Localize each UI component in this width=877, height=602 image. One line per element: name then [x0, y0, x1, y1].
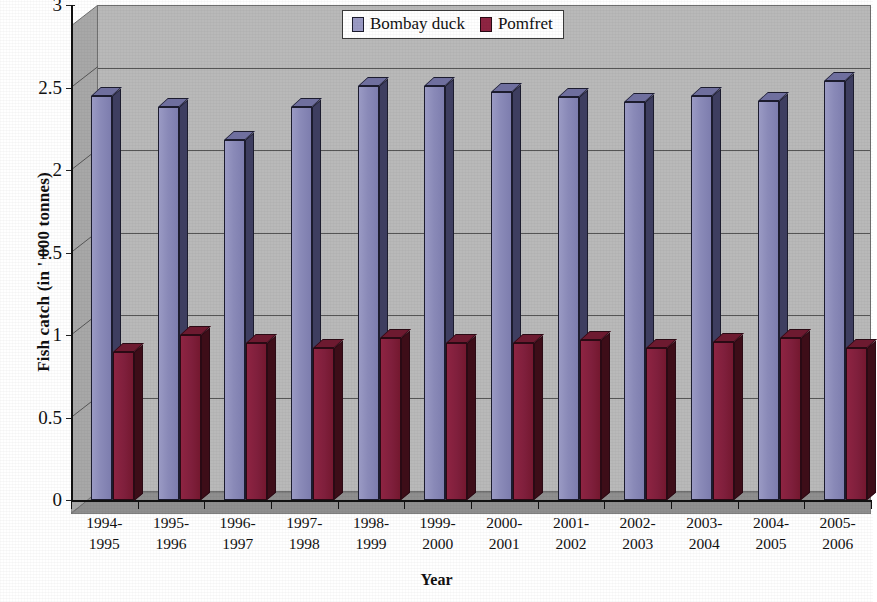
- bar-front-face: [424, 86, 445, 500]
- bar-pomfret: [446, 343, 467, 500]
- y-axis-tick-label: 1: [18, 325, 62, 344]
- x-axis-tick-mark: [871, 500, 872, 509]
- y-axis-line: [71, 5, 73, 502]
- bar-front-face: [580, 340, 601, 500]
- x-axis-tick-label-line2: 2004: [671, 533, 738, 554]
- x-axis-tick-mark: [404, 500, 405, 509]
- x-axis-tick-mark: [138, 500, 139, 509]
- x-axis-tick-mark: [538, 500, 539, 509]
- x-axis-tick-mark: [604, 500, 605, 509]
- bar-bombay-duck: [758, 101, 779, 500]
- x-axis-tick-label-line1: 1998-: [353, 514, 389, 531]
- x-axis-tick-label-line1: 2004-: [753, 514, 789, 531]
- x-axis-tick-label-line2: 2006: [804, 533, 871, 554]
- bar-front-face: [558, 97, 579, 500]
- bar-bombay-duck: [824, 81, 845, 500]
- x-axis-tick-label: 2003-2004: [671, 512, 738, 554]
- bar-front-face: [713, 342, 734, 500]
- x-axis-tick-mark: [671, 500, 672, 509]
- bar-side-face: [801, 331, 810, 500]
- bar-side-face: [667, 341, 676, 500]
- bar-bombay-duck: [158, 107, 179, 500]
- bar-side-face: [201, 327, 210, 500]
- x-axis-tick-mark: [738, 500, 739, 509]
- bar-front-face: [91, 96, 112, 500]
- chart-legend: Bombay duck Pomfret: [342, 10, 564, 39]
- bar-pomfret: [713, 342, 734, 500]
- bar-pomfret: [646, 348, 667, 500]
- bar-pomfret: [780, 338, 801, 500]
- x-axis-tick-label-line1: 1996-: [220, 514, 256, 531]
- bar-side-face: [267, 336, 276, 500]
- bar-front-face: [513, 343, 534, 500]
- x-axis-tick-mark: [338, 500, 339, 509]
- bar-front-face: [158, 107, 179, 500]
- bar-bombay-duck: [491, 92, 512, 500]
- legend-item-bombay-duck: Bombay duck: [352, 14, 465, 34]
- x-axis-tick-label: 1997-1998: [271, 512, 338, 554]
- x-axis-tick-label-line2: 2002: [538, 533, 605, 554]
- x-axis-tick-label-line1: 2002-: [620, 514, 656, 531]
- x-axis-tick-mark: [471, 500, 472, 509]
- bar-front-face: [313, 348, 334, 500]
- x-axis-tick-label: 2005-2006: [804, 512, 871, 554]
- bar-bombay-duck: [358, 86, 379, 500]
- x-axis-tick-label-line1: 2005-: [820, 514, 856, 531]
- bar-front-face: [646, 348, 667, 500]
- bar-bombay-duck: [624, 102, 645, 500]
- x-axis-tick-label-line2: 2000: [404, 533, 471, 554]
- x-axis-tick-label: 2001-2002: [538, 512, 605, 554]
- x-axis-tick-mark: [271, 500, 272, 509]
- bar-side-face: [134, 344, 143, 500]
- bar-pomfret: [180, 335, 201, 500]
- bar-pomfret: [113, 352, 134, 501]
- bar-front-face: [491, 92, 512, 500]
- y-axis-tick-label: 2.5: [18, 78, 62, 97]
- x-axis-tick-label-line1: 2000-: [486, 514, 522, 531]
- bar-front-face: [291, 107, 312, 500]
- x-axis-tick-label-line2: 1999: [338, 533, 405, 554]
- x-axis-tick-label-line1: 2001-: [553, 514, 589, 531]
- x-axis-tick-label: 1995-1996: [138, 512, 205, 554]
- legend-swatch-icon-pomfret: [480, 17, 492, 32]
- bar-bombay-duck: [424, 86, 445, 500]
- x-axis-tick-label-line1: 1994-: [86, 514, 122, 531]
- bar-front-face: [180, 335, 201, 500]
- x-axis-tick-label: 1999-2000: [404, 512, 471, 554]
- bar-pomfret: [846, 348, 867, 500]
- bar-side-face: [867, 341, 876, 500]
- x-axis-tick-label-line1: 1995-: [153, 514, 189, 531]
- bar-front-face: [224, 140, 245, 500]
- bar-pomfret: [513, 343, 534, 500]
- y-axis-tick-label: 0: [18, 490, 62, 509]
- bar-front-face: [758, 101, 779, 500]
- bar-front-face: [246, 343, 267, 500]
- y-axis-tick-label: 2: [18, 160, 62, 179]
- y-axis-tick-labels: 00.511.522.53: [18, 0, 62, 602]
- legend-swatch-icon-bombay-duck: [352, 17, 364, 32]
- x-axis-tick-label-line1: 1997-: [286, 514, 322, 531]
- bars-layer: [71, 5, 871, 515]
- y-axis-tick-label: 1.5: [18, 243, 62, 262]
- x-axis-tick-label-line2: 2001: [471, 533, 538, 554]
- x-axis-tick-label-line2: 1998: [271, 533, 338, 554]
- x-axis-tick-label-line1: 1999-: [420, 514, 456, 531]
- x-axis-tick-label-line2: 1996: [138, 533, 205, 554]
- y-axis-tick-label: 3: [18, 0, 62, 14]
- legend-label-bombay-duck: Bombay duck: [370, 14, 465, 34]
- x-axis-tick-mark: [71, 500, 72, 509]
- bar-front-face: [380, 338, 401, 500]
- bar-side-face: [467, 336, 476, 500]
- x-axis-tick-label: 1994-1995: [71, 512, 138, 554]
- bar-front-face: [780, 338, 801, 500]
- bar-bombay-duck: [291, 107, 312, 500]
- bar-bombay-duck: [558, 97, 579, 500]
- bar-side-face: [401, 331, 410, 500]
- x-axis-tick-label-line1: 2003-: [686, 514, 722, 531]
- x-axis-tick-mark: [204, 500, 205, 509]
- x-axis-tick-labels: 1994-19951995-19961996-19971997-19981998…: [71, 512, 871, 568]
- bar-pomfret: [246, 343, 267, 500]
- x-axis-tick-label: 1998-1999: [338, 512, 405, 554]
- bar-front-face: [824, 81, 845, 500]
